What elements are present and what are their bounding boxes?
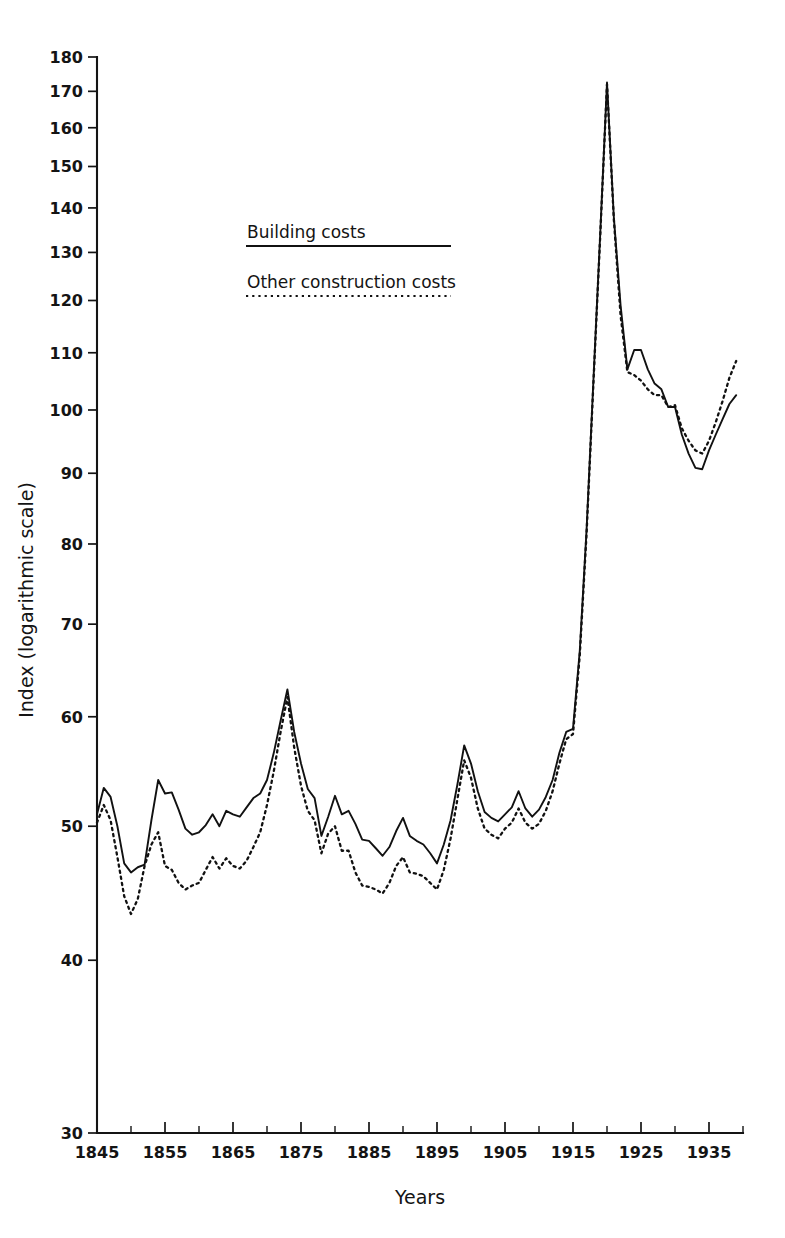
line-chart: 3040506070809010011012013014015016017018… — [0, 0, 785, 1238]
x-axis-tick-label: 1925 — [619, 1143, 664, 1162]
series-line-other-construction-costs — [97, 84, 736, 914]
y-axis-tick-label: 170 — [50, 82, 83, 101]
y-axis-tick-label: 70 — [61, 615, 83, 634]
y-axis-tick-label: 40 — [61, 951, 83, 970]
y-axis-tick-label: 100 — [50, 401, 83, 420]
x-axis-title: Years — [394, 1186, 445, 1208]
y-axis-tick-group: 3040506070809010011012013014015016017018… — [50, 48, 97, 1143]
chart-legend: Building costs Other construction costs — [246, 222, 456, 296]
x-axis-tick-label: 1885 — [347, 1143, 392, 1162]
x-axis-tick-label: 1895 — [415, 1143, 460, 1162]
y-axis-title: Index (logarithmic scale) — [15, 482, 37, 718]
chart-figure: 3040506070809010011012013014015016017018… — [0, 0, 785, 1238]
legend-label-other-construction-costs: Other construction costs — [247, 272, 456, 292]
x-axis-tick-label: 1875 — [279, 1143, 324, 1162]
x-axis-tick-label: 1865 — [211, 1143, 256, 1162]
x-axis-tick-label: 1845 — [75, 1143, 120, 1162]
x-axis-tick-label: 1935 — [687, 1143, 732, 1162]
y-axis-tick-label: 50 — [61, 817, 83, 836]
y-axis-tick-label: 30 — [61, 1124, 83, 1143]
series-line-building-costs — [97, 83, 736, 873]
x-axis-tick-label: 1915 — [551, 1143, 596, 1162]
y-axis-tick-label: 130 — [50, 243, 83, 262]
y-axis-tick-label: 150 — [50, 157, 83, 176]
y-axis-tick-label: 60 — [61, 708, 83, 727]
y-axis-tick-label: 80 — [61, 535, 83, 554]
legend-label-building-costs: Building costs — [247, 222, 366, 242]
x-axis-tick-group: 1845185518651875188518951905191519251935 — [75, 1122, 743, 1162]
y-axis-tick-label: 90 — [61, 464, 83, 483]
y-axis-tick-label: 140 — [50, 199, 83, 218]
x-axis-tick-label: 1905 — [483, 1143, 528, 1162]
y-axis-tick-label: 120 — [50, 291, 83, 310]
y-axis-tick-label: 110 — [50, 344, 83, 363]
y-axis-tick-label: 160 — [50, 119, 83, 138]
y-axis-tick-label: 180 — [50, 48, 83, 67]
x-axis-tick-label: 1855 — [143, 1143, 188, 1162]
